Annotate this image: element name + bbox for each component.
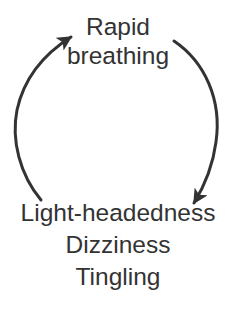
node-symptoms: Light-headedness Dizziness Tingling <box>0 197 236 293</box>
node-text-line: breathing <box>0 41 236 70</box>
node-text-line: Rapid <box>0 12 236 41</box>
node-text-line: Light-headedness <box>0 197 236 229</box>
node-text-line: Dizziness <box>0 229 236 261</box>
cycle-diagram: Rapid breathing Light-headedness Dizzine… <box>0 0 236 312</box>
node-text-line: Tingling <box>0 261 236 293</box>
node-rapid-breathing: Rapid breathing <box>0 12 236 70</box>
